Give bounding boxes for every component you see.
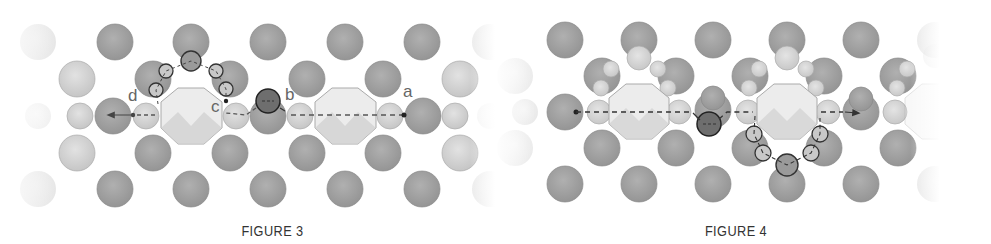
figure-3-caption: FIGURE 3 <box>41 222 504 239</box>
label-b: b <box>285 85 294 104</box>
atom-row-5 <box>547 166 953 202</box>
figure-4: FIGURE 4 <box>495 0 991 244</box>
label-a: a <box>403 82 413 101</box>
atom-row-1 <box>20 24 495 60</box>
point-c-marker <box>224 99 228 103</box>
atom-row-4 <box>59 135 478 171</box>
figure-3: a b c d FIGURE 3 <box>0 0 495 244</box>
label-d: d <box>128 86 137 105</box>
point-d-marker <box>131 113 135 117</box>
figure-4-caption: FIGURE 4 <box>531 222 941 239</box>
label-c: c <box>211 97 220 116</box>
octagon-right <box>757 84 817 139</box>
point-a-marker <box>402 113 407 118</box>
figure-4-diagram <box>495 0 991 215</box>
atom-row-1 <box>547 22 953 58</box>
atom-row-5 <box>20 171 495 207</box>
octagon-right <box>315 88 376 144</box>
figure-3-diagram: a b c d <box>0 0 495 215</box>
